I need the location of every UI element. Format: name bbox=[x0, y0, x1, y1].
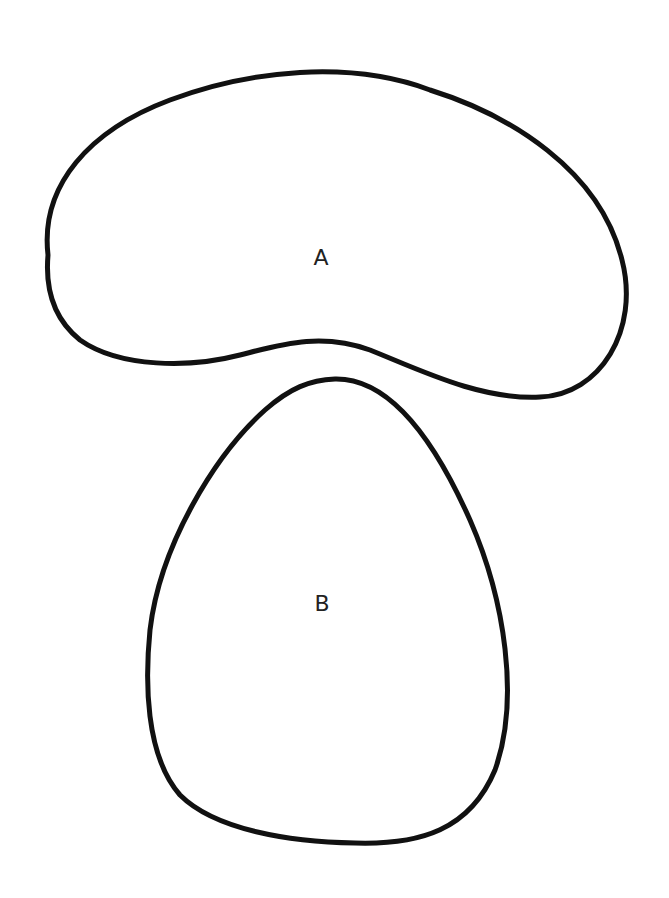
shape-a-label: A bbox=[313, 245, 328, 270]
shape-b-label: B bbox=[314, 591, 329, 616]
shape-a-outline bbox=[47, 72, 626, 397]
diagram-canvas: A B bbox=[0, 0, 669, 898]
